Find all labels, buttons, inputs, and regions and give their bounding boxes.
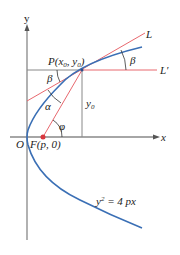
- beta-angle-arc-left: [57, 70, 60, 82]
- focus-label: F(p, 0): [29, 138, 61, 151]
- beta-angle-label-right: β: [129, 54, 136, 66]
- phi-angle-label: φ: [59, 120, 65, 132]
- tangent-line-label: L: [145, 28, 152, 40]
- point-P-marker: [81, 69, 84, 72]
- alpha-angle-label: α: [45, 100, 51, 112]
- x-axis-label: x: [160, 131, 166, 143]
- origin-label: O: [16, 138, 24, 150]
- horizontal-line-label: L′: [159, 64, 169, 76]
- point-P-label: P(x0, y0): [47, 55, 85, 69]
- parabola-reflection-diagram: y x O F(p, 0) P(x0, y0) L L′ β β α φ y0 …: [0, 0, 180, 255]
- y-axis-arrow-icon: [25, 24, 30, 31]
- x-axis-arrow-icon: [153, 135, 160, 140]
- beta-angle-label-left: β: [46, 72, 53, 84]
- parabola-equation-label: y2 = 4 px: [95, 195, 136, 207]
- axes: [10, 24, 160, 240]
- y-axis-label: y: [24, 12, 30, 24]
- y0-label: y0: [85, 97, 95, 111]
